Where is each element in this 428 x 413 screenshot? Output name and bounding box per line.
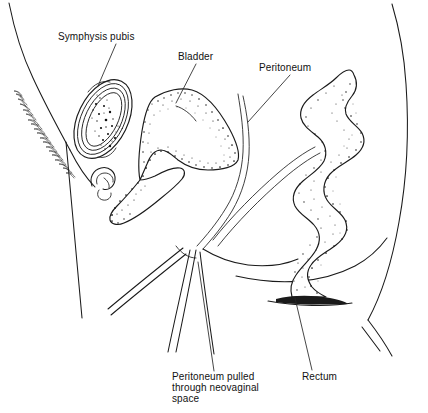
label-peritoneum: Peritoneum	[259, 62, 311, 73]
label-rectum: Rectum	[302, 371, 337, 382]
label-symphysis-pubis: Symphysis pubis	[58, 31, 135, 42]
anatomy-diagram-canvas: Symphysis pubis Bladder Peritoneum Rectu…	[0, 0, 428, 413]
label-bladder: Bladder	[178, 51, 214, 62]
medical-illustration-figure: Symphysis pubis Bladder Peritoneum Rectu…	[0, 0, 428, 413]
label-peritoneum-pulled-line-3: space	[172, 393, 200, 404]
label-peritoneum-pulled-line-2: through neovaginal	[172, 382, 259, 393]
label-peritoneum-pulled-line-1: Peritoneum pulled	[172, 371, 254, 382]
